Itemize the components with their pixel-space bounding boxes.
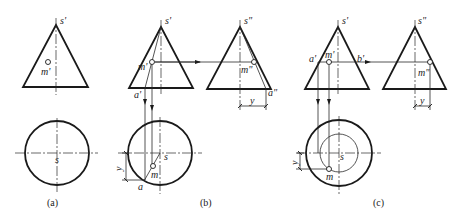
label-m-double-prime: m" xyxy=(418,67,430,78)
label-s-prime: s' xyxy=(60,15,67,26)
cone-projection-diagram: s' m' s (a) s' m' a' s" m" a" y s m a y … xyxy=(0,0,458,221)
front-view-triangle xyxy=(129,20,193,96)
label-a: a xyxy=(138,181,143,192)
label-s-double-prime: s" xyxy=(418,15,427,26)
label-s: s xyxy=(55,154,59,165)
panel-c xyxy=(296,20,446,194)
front-view-triangle xyxy=(23,18,88,95)
plan-view-circle xyxy=(118,117,202,194)
generator-line-side xyxy=(240,27,266,89)
caption-a: (a) xyxy=(47,197,58,209)
label-b-prime: b' xyxy=(357,53,365,64)
side-view-triangle xyxy=(207,20,271,110)
label-y-side: y xyxy=(419,95,425,106)
generator-line xyxy=(145,27,161,88)
plan-view-circles xyxy=(297,116,381,194)
label-m: m xyxy=(326,171,333,182)
panel-a xyxy=(15,18,98,194)
label-s-prime: s' xyxy=(165,15,172,26)
label-s: s xyxy=(340,151,344,162)
point-m-front xyxy=(327,60,332,65)
label-y-plan: y xyxy=(113,166,124,172)
side-view-triangle xyxy=(383,20,446,110)
label-a-prime: a' xyxy=(309,53,317,64)
point-m-front xyxy=(46,60,51,65)
label-y-plan: y xyxy=(289,160,300,166)
caption-c: (c) xyxy=(373,197,384,209)
point-m-side xyxy=(428,60,433,65)
label-m: m xyxy=(151,169,158,180)
label-a-double-prime: a" xyxy=(268,87,278,98)
label-m-double-prime: m" xyxy=(241,64,253,75)
point-m-plan xyxy=(151,164,156,169)
caption-b: (b) xyxy=(200,197,212,209)
label-m-prime: m' xyxy=(138,61,148,72)
point-m-front xyxy=(150,60,155,65)
label-m-prime: m' xyxy=(41,66,51,77)
label-m-prime: m' xyxy=(325,49,335,60)
label-s: s xyxy=(164,151,168,162)
label-y-side: y xyxy=(249,95,255,106)
label-s-prime: s' xyxy=(342,15,349,26)
label-s-double-prime: s" xyxy=(244,15,253,26)
label-a-prime: a' xyxy=(134,89,142,100)
panel-b xyxy=(118,20,271,194)
